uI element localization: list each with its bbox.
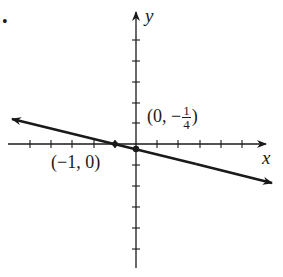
point-label-neg1-0: (−1, 0)	[51, 153, 100, 171]
coordinate-plane	[0, 0, 283, 277]
y-axis-label: y	[145, 6, 153, 25]
x-axis-label: x	[262, 148, 270, 167]
fraction-one-quarter: 14	[182, 104, 191, 131]
point-label-0-neg-quarter: (0, −14)	[147, 104, 198, 131]
graph-line	[196, 164, 272, 183]
point-neg1-0	[111, 140, 119, 148]
point-0-neg-quarter	[133, 146, 139, 152]
